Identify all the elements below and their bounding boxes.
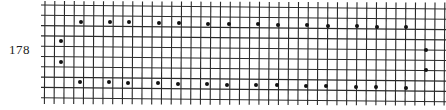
grid-vertical-line (64, 1, 65, 104)
grid-vertical-line (434, 3, 435, 106)
grid-horizontal-line (41, 46, 446, 50)
grid-dot (176, 82, 180, 86)
grid-horizontal-line (41, 26, 446, 30)
grid-dot (127, 20, 131, 24)
grid-lines (41, 1, 446, 106)
grid-dot (225, 83, 229, 87)
grid-vertical-line (83, 1, 84, 104)
grid-horizontal-line (41, 15, 446, 19)
grid-vertical-line (44, 1, 45, 104)
grid-vertical-line (113, 1, 114, 104)
grid-vertical-line (415, 2, 416, 105)
grid-horizontal-line (41, 36, 446, 40)
grid-horizontal-line (41, 5, 446, 9)
grid-dot (404, 25, 408, 29)
grid-dot (374, 85, 378, 89)
grid-vertical-line (122, 1, 123, 104)
grid-vertical-line (103, 1, 104, 104)
grid-dot (157, 21, 161, 25)
grid-vertical-line (356, 2, 357, 105)
grid-chart (0, 0, 446, 110)
grid-dot (276, 23, 280, 27)
grid-dot (275, 83, 279, 87)
grid-dot (177, 21, 181, 25)
grid-horizontal-line (41, 67, 446, 71)
grid-vertical-line (395, 2, 396, 105)
grid-vertical-line (405, 2, 406, 105)
grid-dot (156, 81, 160, 85)
grid-dot (107, 80, 111, 84)
grid-vertical-line (444, 3, 445, 106)
grid-vertical-line (337, 2, 338, 105)
grid-dot (206, 22, 210, 26)
grid-chart-svg (0, 0, 446, 110)
grid-dot (79, 20, 83, 24)
grid-dot (424, 68, 428, 72)
grid-dot (404, 86, 408, 90)
grid-vertical-line (347, 2, 348, 105)
grid-dot (355, 24, 359, 28)
grid-dot (324, 84, 328, 88)
grid-dot (59, 39, 63, 43)
grid-dot (59, 60, 63, 64)
grid-dot (424, 48, 428, 52)
grid-vertical-line (386, 2, 387, 105)
grid-vertical-line (74, 1, 75, 104)
grid-horizontal-line (41, 57, 446, 61)
grid-dot (126, 81, 130, 85)
grid-dot (108, 20, 112, 24)
grid-vertical-line (54, 1, 55, 104)
grid-dot (326, 24, 330, 28)
grid-dot (78, 80, 82, 84)
grid-dot (256, 22, 260, 26)
grid-dot (304, 84, 308, 88)
grid-vertical-line (376, 2, 377, 105)
grid-dot (305, 23, 309, 27)
grid-vertical-line (93, 1, 94, 104)
grid-vertical-line (366, 2, 367, 105)
grid-vertical-line (132, 1, 133, 104)
grid-vertical-line (425, 3, 426, 106)
grid-dot (375, 25, 379, 29)
grid-dot (354, 85, 358, 89)
grid-dot (227, 22, 231, 26)
grid-dot (254, 83, 258, 87)
grid-dot (205, 82, 209, 86)
